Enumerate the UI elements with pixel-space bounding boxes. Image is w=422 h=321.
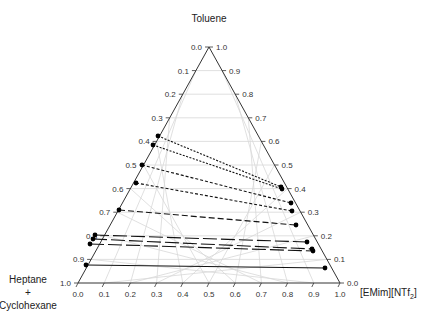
grid-lines	[91, 71, 327, 283]
left-tick-label: 0.7	[99, 208, 111, 217]
right-tick-label: 0.0	[347, 279, 359, 288]
raffinate-point	[156, 134, 161, 139]
extract-point	[290, 209, 295, 214]
extract-point	[294, 223, 299, 228]
vertex-label-plus: +	[25, 287, 31, 298]
bottom-tick-label: 0.1	[99, 290, 111, 299]
right-tick-label: 0.2	[321, 232, 333, 241]
bottom-tick-label: 0.9	[308, 290, 320, 299]
raffinate-point	[151, 143, 156, 148]
vertex-label-emim-ntf2: [EMim][NTf2]	[360, 287, 417, 300]
left-tick-label: 0.4	[138, 137, 150, 146]
bottom-tick-label: 0.5	[203, 290, 215, 299]
left-tick-label: 0.0	[191, 43, 203, 52]
extract-point	[311, 249, 316, 254]
bottom-tick-label: 0.0	[72, 290, 84, 299]
bottom-tick-label: 0.7	[256, 290, 268, 299]
left-tick-label: 0.2	[165, 90, 177, 99]
raffinate-point	[140, 163, 145, 168]
extract-point	[280, 187, 285, 192]
bottom-tick-label: 0.4	[177, 290, 189, 299]
right-tick-label: 0.5	[282, 161, 294, 170]
bottom-tick-label: 0.6	[230, 290, 242, 299]
right-tick-label: 0.1	[334, 255, 346, 264]
bottom-tick-label: 0.3	[151, 290, 163, 299]
left-tick-label: 0.9	[73, 255, 85, 264]
extract-point	[289, 201, 294, 206]
bottom-tick-label: 1.0	[334, 290, 346, 299]
right-tick-label: 0.8	[242, 90, 254, 99]
tie-line	[153, 145, 282, 189]
raffinate-point	[134, 181, 139, 186]
raffinate-point	[91, 237, 96, 242]
right-tick-label: 1.0	[216, 43, 228, 52]
right-tick-label: 0.6	[268, 137, 280, 146]
raffinate-point	[88, 242, 93, 247]
grid-line	[91, 259, 314, 283]
ternary-diagram: 0.00.10.20.30.40.50.60.70.80.91.01.00.90…	[0, 0, 422, 321]
vertex-label-toluene: Toluene	[191, 13, 226, 24]
bottom-tick-label: 0.8	[282, 290, 294, 299]
left-tick-label: 0.3	[152, 114, 164, 123]
right-tick-label: 0.4	[295, 185, 307, 194]
raffinate-point	[84, 263, 89, 268]
vertex-label-heptane: Heptane	[9, 274, 47, 285]
right-tick-label: 0.3	[308, 208, 320, 217]
left-tick-label: 0.1	[178, 67, 190, 76]
tie-line	[86, 265, 325, 268]
right-tick-label: 0.7	[255, 114, 267, 123]
raffinate-point	[117, 208, 122, 213]
extract-point	[305, 240, 310, 245]
vertex-label-cyclohexane: Cyclohexane	[0, 300, 57, 311]
left-tick-label: 1.0	[60, 279, 72, 288]
extract-point	[323, 266, 328, 271]
left-tick-label: 0.6	[112, 185, 124, 194]
tie-lines	[84, 134, 328, 271]
left-tick-label: 0.5	[125, 161, 137, 170]
bottom-tick-label: 0.2	[125, 290, 137, 299]
right-tick-label: 0.9	[229, 67, 241, 76]
